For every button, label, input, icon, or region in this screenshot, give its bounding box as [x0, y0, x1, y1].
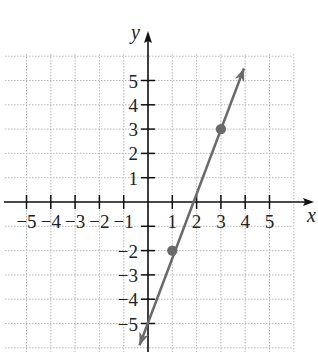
x-axis-label: x	[306, 204, 316, 226]
y-tick-label: 2	[129, 143, 139, 164]
function-line	[139, 68, 243, 345]
y-axis-label: y	[129, 21, 140, 44]
x-tick-label: 2	[192, 211, 202, 232]
x-tick-label: −4	[41, 211, 62, 232]
x-tick-label: 1	[168, 211, 178, 232]
x-tick-label: −5	[16, 211, 36, 232]
plotted-line	[139, 68, 244, 345]
data-point	[216, 124, 226, 134]
x-tick-label: −1	[114, 211, 134, 232]
x-tick-label: −3	[65, 211, 85, 232]
x-tick-label: 4	[240, 211, 250, 232]
y-tick-label: 5	[129, 71, 139, 92]
y-tick-label: −2	[118, 241, 138, 262]
x-tick-label: 5	[265, 211, 275, 232]
y-tick-label: 4	[129, 95, 139, 116]
y-tick-label: −3	[118, 265, 138, 286]
y-tick-label: 1	[129, 168, 139, 189]
data-point	[167, 245, 177, 255]
x-tick-label: −2	[89, 211, 109, 232]
grid	[5, 54, 294, 352]
y-tick-label: 3	[129, 119, 139, 140]
coordinate-plane: xy −5−4−3−2−112345−5−4−3−212345	[0, 0, 318, 355]
y-tick-label: −4	[118, 289, 139, 310]
y-tick-label: −5	[118, 314, 138, 335]
x-tick-label: 3	[216, 211, 226, 232]
